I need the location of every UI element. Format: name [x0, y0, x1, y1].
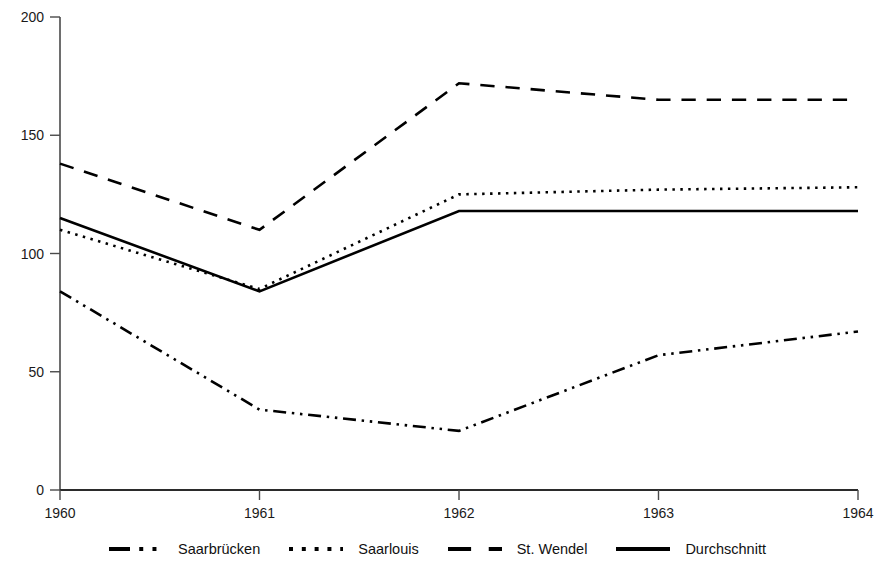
legend-entry-durchschnitt[interactable]: Durchschnitt: [615, 541, 766, 557]
line-chart: 200 150 100 50 0 1960 1961 1962 1963 196…: [0, 0, 874, 525]
chart-page: 200 150 100 50 0 1960 1961 1962 1963 196…: [0, 0, 874, 570]
legend-swatch-st-wendel: [447, 542, 503, 556]
x-axis-label-1960: 1960: [44, 505, 75, 521]
legend-swatch-saarbr-cken: [108, 542, 164, 556]
series-line-saarlouis: [60, 187, 858, 289]
x-axis-label-1962: 1962: [443, 505, 474, 521]
y-axis-label-200: 200: [21, 9, 45, 25]
y-axis-label-100: 100: [21, 246, 45, 262]
series-line-durchschnitt: [60, 211, 858, 291]
y-axis-label-150: 150: [21, 127, 45, 143]
series-group: [60, 83, 858, 431]
legend-swatch-durchschnitt: [615, 542, 671, 556]
series-line-st-wendel: [60, 83, 858, 230]
legend-label-st-wendel: St. Wendel: [517, 541, 588, 557]
legend-label-durchschnitt: Durchschnitt: [685, 541, 766, 557]
legend-label-saarbr-cken: Saarbrücken: [178, 541, 260, 557]
y-axis-label-50: 50: [28, 364, 44, 380]
legend-entry-saarlouis[interactable]: Saarlouis: [288, 541, 418, 557]
y-axis-label-0: 0: [36, 482, 44, 498]
legend-label-saarlouis: Saarlouis: [358, 541, 418, 557]
legend-entry-saarbr-cken[interactable]: Saarbrücken: [108, 541, 260, 557]
x-axis-label-1963: 1963: [643, 505, 674, 521]
x-axis-label-1961: 1961: [244, 505, 275, 521]
legend-swatch-saarlouis: [288, 542, 344, 556]
x-axis-label-1964: 1964: [842, 505, 873, 521]
chart-legend: SaarbrückenSaarlouisSt. WendelDurchschni…: [0, 528, 874, 570]
legend-entry-st-wendel[interactable]: St. Wendel: [447, 541, 588, 557]
chart-svg: 200 150 100 50 0 1960 1961 1962 1963 196…: [0, 0, 874, 525]
series-line-saarbr-cken: [60, 291, 858, 431]
